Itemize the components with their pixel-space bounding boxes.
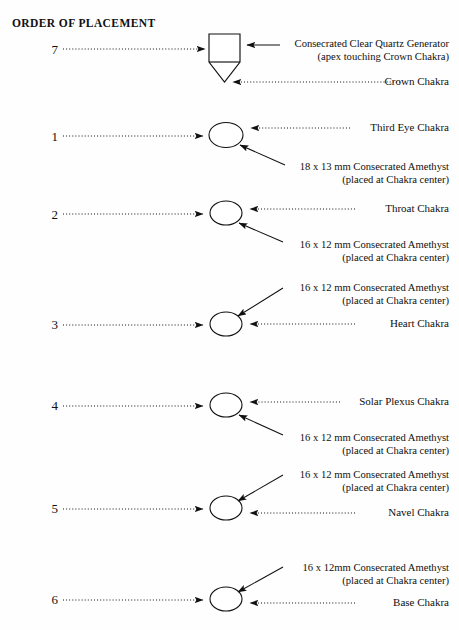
order-number-solar-plexus: 4 (38, 399, 58, 412)
third-eye-amethyst-note: 18 x 13 mm Consecrated Amethyst (placed … (300, 160, 449, 186)
throat-chakra-symbol (210, 201, 242, 225)
heart-chakra-label: Heart Chakra (390, 317, 449, 331)
third-eye-amethyst-note-line2: (placed at Chakra center) (300, 173, 449, 186)
base-amethyst-leader (238, 567, 283, 592)
quartz-generator-shape (209, 34, 240, 82)
navel-amethyst-note-line1: 16 x 12 mm Consecrated Amethyst (300, 468, 449, 481)
throat-amethyst-note-line1: 16 x 12 mm Consecrated Amethyst (300, 238, 449, 251)
solar-plexus-amethyst-note: 16 x 12 mm Consecrated Amethyst (placed … (300, 431, 449, 457)
throat-amethyst-note: 16 x 12 mm Consecrated Amethyst (placed … (300, 238, 449, 264)
base-chakra-symbol (210, 587, 242, 611)
chakra-placement-diagram (0, 0, 459, 630)
solar-plexus-chakra-label: Solar Plexus Chakra (359, 395, 449, 409)
heart-chakra-symbol (210, 312, 242, 336)
third-eye-chakra-symbol (209, 123, 243, 148)
heart-amethyst-leader (238, 288, 283, 316)
solar-plexus-amethyst-leader (239, 415, 283, 435)
throat-amethyst-note-line2: (placed at Chakra center) (300, 251, 449, 264)
throat-chakra-label: Throat Chakra (385, 202, 449, 216)
navel-amethyst-note: 16 x 12 mm Consecrated Amethyst (placed … (300, 468, 449, 494)
order-number-crown: 7 (38, 43, 58, 56)
navel-amethyst-note-line2: (placed at Chakra center) (300, 481, 449, 494)
third-eye-chakra-label: Third Eye Chakra (370, 121, 449, 135)
crown-chakra-label: Crown Chakra (385, 75, 449, 89)
order-number-third-eye: 1 (38, 130, 58, 143)
solar-plexus-amethyst-note-line2: (placed at Chakra center) (300, 444, 449, 457)
third-eye-chakra-group (63, 123, 350, 166)
throat-chakra-group (63, 201, 355, 242)
base-amethyst-note-line2: (placed at Chakra center) (302, 574, 449, 587)
quartz-generator-label: Consecrated Clear Quartz Generator (apex… (295, 37, 449, 63)
navel-amethyst-leader (238, 475, 283, 501)
base-chakra-label: Base Chakra (393, 596, 449, 610)
navel-chakra-label: Navel Chakra (388, 506, 449, 520)
base-amethyst-note: 16 x 12mm Consecrated Amethyst (placed a… (302, 561, 449, 587)
quartz-generator-label-line2: (apex touching Crown Chakra) (295, 50, 449, 63)
order-number-throat: 2 (38, 208, 58, 221)
solar-plexus-chakra-symbol (210, 393, 242, 417)
order-number-base: 6 (38, 593, 58, 606)
order-number-navel: 5 (38, 502, 58, 515)
third-eye-amethyst-leader (240, 145, 285, 165)
heart-amethyst-note: 16 x 12 mm Consecrated Amethyst (placed … (300, 281, 449, 307)
heart-amethyst-note-line1: 16 x 12 mm Consecrated Amethyst (300, 281, 449, 294)
navel-chakra-symbol (210, 496, 242, 520)
quartz-generator-label-line1: Consecrated Clear Quartz Generator (295, 37, 449, 50)
solar-plexus-chakra-group (63, 393, 340, 435)
base-amethyst-note-line1: 16 x 12mm Consecrated Amethyst (302, 561, 449, 574)
solar-plexus-amethyst-note-line1: 16 x 12 mm Consecrated Amethyst (300, 431, 449, 444)
throat-amethyst-leader (239, 223, 283, 242)
heart-amethyst-note-line2: (placed at Chakra center) (300, 294, 449, 307)
order-number-heart: 3 (38, 318, 58, 331)
third-eye-amethyst-note-line1: 18 x 13 mm Consecrated Amethyst (300, 160, 449, 173)
